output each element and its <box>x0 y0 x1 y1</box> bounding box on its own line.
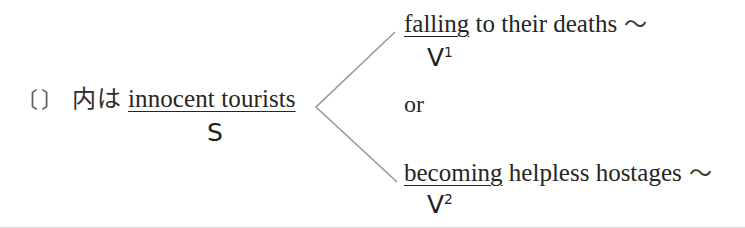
role-superscript-v2: 2 <box>444 191 453 207</box>
japanese-note: 内は <box>72 85 121 113</box>
bracket-close-icon: 〕 <box>41 87 66 112</box>
bracket-open-icon: 〔 <box>16 87 41 112</box>
role-label-verb-2: V2 <box>427 192 453 217</box>
sentence-structure-diagram: 〔〕内はinnocent tourists S falling to their… <box>0 0 745 228</box>
predicate-verb-top: falling <box>404 10 469 37</box>
predicate-rest-bottom: helpless hostages <box>503 159 682 186</box>
predicate-rest-top: to their deaths <box>469 10 617 37</box>
subject-clause: 〔〕内はinnocent tourists <box>16 86 296 111</box>
role-label-subject: S <box>207 120 223 145</box>
tilde-mark-bottom: 〜 <box>689 160 712 186</box>
predicate-verb-bottom: becoming <box>404 159 503 186</box>
predicate-branch-top: falling to their deaths〜 <box>404 11 647 36</box>
role-letter-v1: V <box>427 43 444 72</box>
fork-polyline <box>316 32 397 182</box>
role-superscript-v1: 1 <box>444 44 453 60</box>
subject-phrase: innocent tourists <box>128 85 296 112</box>
predicate-branch-bottom: becoming helpless hostages〜 <box>404 160 712 185</box>
tilde-mark-top: 〜 <box>624 11 647 37</box>
conjunction-or: or <box>404 92 424 116</box>
scan-edge-artifact <box>0 227 745 228</box>
role-letter-v2: V <box>427 190 444 219</box>
role-label-verb-1: V1 <box>427 45 453 70</box>
